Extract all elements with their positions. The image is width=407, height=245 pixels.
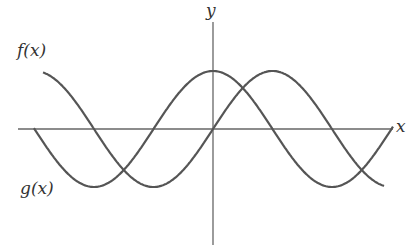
g-curve-label: g(x) xyxy=(20,180,54,197)
x-axis-label: x xyxy=(396,118,406,135)
f-curve-label: f(x) xyxy=(17,42,46,59)
plot-area xyxy=(0,0,407,245)
y-axis-label: y xyxy=(206,2,216,19)
